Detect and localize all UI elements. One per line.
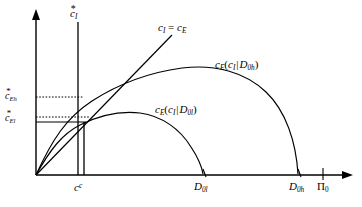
curve-ce-d0h	[36, 67, 298, 175]
axis-ticks	[203, 168, 323, 180]
label-c-el-star: cEl*	[5, 113, 20, 124]
label-c-i-star: cI*	[70, 8, 82, 21]
label-curve-ce-d0h: cE(cI|D0h)	[215, 59, 258, 72]
label-pi0: Π0	[317, 181, 329, 194]
label-c-c: cc	[74, 182, 82, 193]
label-d0l: D0l	[194, 181, 208, 194]
label-curve-ce-d0l: cE(cI|D0l)	[155, 104, 197, 117]
figure-canvas: cI* cI = cE cE(cI|D0h) cE(cI|D0l) cEh* c…	[0, 0, 362, 207]
ray-ci-equals-ce	[36, 35, 172, 175]
label-d0h: D0h	[289, 181, 304, 194]
label-c-eh-star: cEh*	[5, 91, 21, 102]
label-ci-equals-ce: cI = cE	[158, 22, 186, 35]
y-axis	[32, 9, 40, 175]
